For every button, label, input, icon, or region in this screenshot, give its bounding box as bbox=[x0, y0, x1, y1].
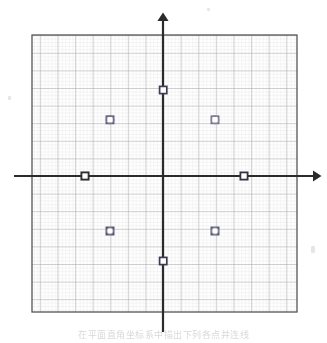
data-point-g[interactable] bbox=[211, 227, 218, 234]
data-point-f[interactable] bbox=[106, 227, 113, 234]
data-point-a[interactable] bbox=[160, 86, 167, 93]
scan-artifact bbox=[207, 8, 210, 11]
scan-artifact bbox=[8, 96, 11, 100]
data-point-d[interactable] bbox=[81, 172, 88, 179]
coordinate-plane bbox=[0, 0, 327, 343]
grid-area bbox=[32, 35, 297, 312]
data-point-h[interactable] bbox=[160, 257, 167, 264]
y-axis-arrow bbox=[157, 13, 168, 22]
x-axis-arrow bbox=[313, 170, 322, 181]
data-point-c[interactable] bbox=[211, 116, 219, 124]
data-point-b[interactable] bbox=[106, 116, 114, 124]
scan-artifact bbox=[311, 246, 315, 253]
figure-caption: 在平面直角坐标系中描出下列各点并连线 bbox=[0, 330, 327, 341]
data-point-e[interactable] bbox=[240, 172, 247, 179]
graph-figure: 在平面直角坐标系中描出下列各点并连线 bbox=[0, 0, 327, 343]
